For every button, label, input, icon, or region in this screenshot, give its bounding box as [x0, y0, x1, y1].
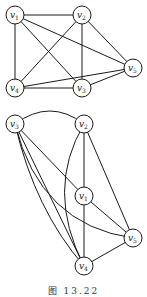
graph-bottom-edges	[15, 111, 133, 266]
node-top-v4: v4	[6, 79, 24, 97]
figure-caption: 图 13.22	[0, 284, 147, 297]
edge-v2-v5	[82, 15, 133, 68]
node-top-v1: v1	[6, 6, 24, 24]
edge-v3-v2-arc	[15, 111, 84, 124]
node-top-v5: v5	[124, 59, 142, 77]
edge-v1-v5	[15, 15, 133, 68]
node-bottom-v2: v2	[75, 115, 93, 133]
node-bottom-v4: v4	[75, 257, 93, 275]
node-bottom-v3: v3	[6, 115, 24, 133]
node-top-v2: v2	[73, 6, 91, 24]
graph-top-edges	[15, 15, 133, 88]
node-bottom-v5: v5	[124, 229, 142, 247]
edge-v1-v5	[84, 196, 133, 238]
node-top-v3: v3	[73, 79, 91, 97]
edge-v2-v5	[84, 124, 133, 238]
node-bottom-v1: v1	[75, 187, 93, 205]
